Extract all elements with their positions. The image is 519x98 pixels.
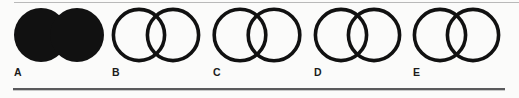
answer-option-e[interactable]: E: [412, 6, 504, 82]
two-overlapping-circles-filled-icon[interactable]: [13, 6, 105, 64]
two-overlapping-circles-outline-icon[interactable]: [313, 6, 405, 64]
answer-options-figure: A B: [0, 0, 519, 98]
bottom-divider-rule: [13, 88, 505, 90]
answer-option-d[interactable]: D: [313, 6, 405, 82]
answer-option-b[interactable]: B: [111, 6, 203, 82]
answer-option-label: E: [413, 66, 420, 79]
answer-option-label: C: [213, 66, 221, 79]
answer-option-c[interactable]: C: [212, 6, 304, 82]
answer-option-label: B: [112, 66, 120, 79]
two-overlapping-circles-outline-icon[interactable]: [412, 6, 504, 64]
two-overlapping-circles-outline-icon[interactable]: [111, 6, 203, 64]
answer-option-label: A: [14, 66, 22, 79]
two-overlapping-circles-outline-icon[interactable]: [212, 6, 304, 64]
answer-option-a[interactable]: A: [13, 6, 105, 82]
answer-options-row: A B: [0, 0, 519, 98]
answer-option-label: D: [314, 66, 322, 79]
